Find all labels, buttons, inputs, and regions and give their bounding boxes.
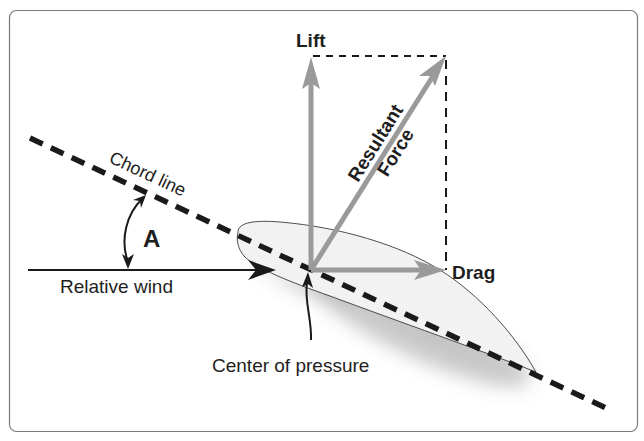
lift-label: Lift (296, 30, 326, 51)
angle-of-attack-label: A (143, 225, 160, 252)
drag-label: Drag (452, 262, 495, 283)
center-of-pressure-label: Center of pressure (212, 355, 369, 376)
relative-wind-label: Relative wind (60, 276, 173, 297)
airfoil-forces-diagram: Lift Drag Resultant Force Chord line A R… (0, 0, 644, 441)
